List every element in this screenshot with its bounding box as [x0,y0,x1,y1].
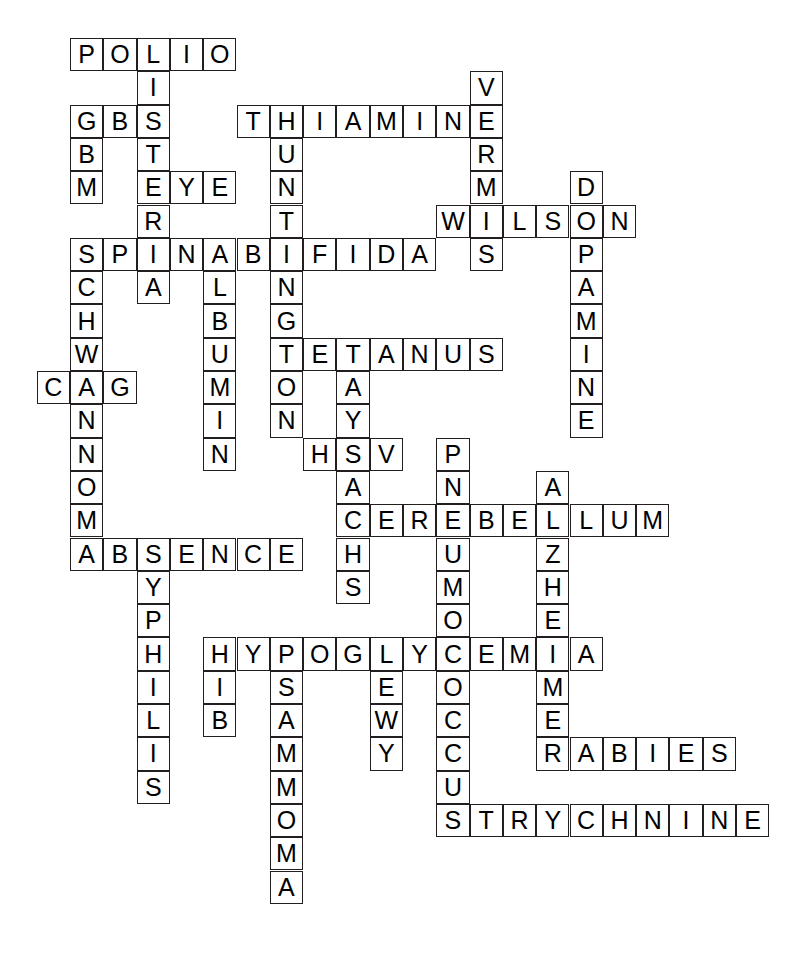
crossword-cell[interactable]: W [436,205,469,238]
crossword-cell[interactable]: I [203,671,236,704]
crossword-cell[interactable]: Y [336,404,369,437]
crossword-cell[interactable]: T [137,138,170,171]
crossword-cell[interactable]: I [137,238,170,271]
crossword-cell[interactable]: B [70,138,103,171]
crossword-cell[interactable]: G [103,371,136,404]
crossword-cell[interactable]: P [70,38,103,71]
crossword-cell[interactable]: E [436,504,469,537]
crossword-cell[interactable]: G [336,637,369,670]
crossword-cell[interactable]: I [170,38,203,71]
crossword-cell[interactable]: T [270,205,303,238]
crossword-cell[interactable]: L [203,271,236,304]
crossword-cell[interactable]: N [403,338,436,371]
crossword-cell[interactable]: I [536,637,569,670]
crossword-cell[interactable]: M [536,671,569,704]
crossword-cell[interactable]: S [536,205,569,238]
crossword-cell[interactable]: I [303,105,336,138]
crossword-cell[interactable]: I [336,238,369,271]
crossword-cell[interactable]: U [436,538,469,571]
crossword-cell[interactable]: O [270,804,303,837]
crossword-cell[interactable]: R [137,205,170,238]
crossword-cell[interactable]: A [70,371,103,404]
crossword-cell[interactable]: E [669,737,702,770]
crossword-cell[interactable]: N [436,471,469,504]
crossword-cell[interactable]: C [436,704,469,737]
crossword-cell[interactable]: O [570,205,603,238]
crossword-cell[interactable]: Y [536,804,569,837]
crossword-cell[interactable]: H [70,304,103,337]
crossword-cell[interactable]: T [237,105,270,138]
crossword-cell[interactable]: G [270,304,303,337]
crossword-cell[interactable]: A [570,737,603,770]
crossword-cell[interactable]: E [570,404,603,437]
crossword-cell[interactable]: N [70,404,103,437]
crossword-cell[interactable]: W [370,704,403,737]
crossword-cell[interactable]: N [270,271,303,304]
crossword-cell[interactable]: C [436,737,469,770]
crossword-cell[interactable]: F [303,238,336,271]
crossword-cell[interactable]: O [203,38,236,71]
crossword-cell[interactable]: P [436,438,469,471]
crossword-cell[interactable]: D [570,171,603,204]
crossword-cell[interactable]: E [536,704,569,737]
crossword-cell[interactable]: N [703,804,736,837]
crossword-cell[interactable]: O [70,471,103,504]
crossword-cell[interactable]: H [203,637,236,670]
crossword-cell[interactable]: A [270,871,303,904]
crossword-cell[interactable]: L [137,38,170,71]
crossword-cell[interactable]: A [570,271,603,304]
crossword-cell[interactable]: S [336,438,369,471]
crossword-cell[interactable]: E [536,604,569,637]
crossword-cell[interactable]: A [70,538,103,571]
crossword-cell[interactable]: B [203,304,236,337]
crossword-cell[interactable]: C [436,637,469,670]
crossword-cell[interactable]: U [603,504,636,537]
crossword-cell[interactable]: N [570,371,603,404]
crossword-cell[interactable]: P [103,238,136,271]
crossword-cell[interactable]: I [669,804,702,837]
crossword-cell[interactable]: N [70,438,103,471]
crossword-cell[interactable]: E [370,671,403,704]
crossword-cell[interactable]: E [470,637,503,670]
crossword-cell[interactable]: I [403,105,436,138]
crossword-cell[interactable]: E [303,338,336,371]
crossword-cell[interactable]: M [270,737,303,770]
crossword-cell[interactable]: H [270,105,303,138]
crossword-cell[interactable]: I [270,238,303,271]
crossword-cell[interactable]: S [137,771,170,804]
crossword-cell[interactable]: M [503,637,536,670]
crossword-cell[interactable]: L [536,504,569,537]
crossword-cell[interactable]: S [137,105,170,138]
crossword-cell[interactable]: O [436,671,469,704]
crossword-cell[interactable]: C [37,371,70,404]
crossword-cell[interactable]: H [336,538,369,571]
crossword-cell[interactable]: I [636,737,669,770]
crossword-cell[interactable]: A [570,637,603,670]
crossword-cell[interactable]: M [203,371,236,404]
crossword-cell[interactable]: M [436,571,469,604]
crossword-cell[interactable]: M [370,105,403,138]
crossword-cell[interactable]: N [636,804,669,837]
crossword-cell[interactable]: N [170,238,203,271]
crossword-cell[interactable]: S [70,238,103,271]
crossword-cell[interactable]: N [270,404,303,437]
crossword-cell[interactable]: N [203,538,236,571]
crossword-cell[interactable]: I [570,338,603,371]
crossword-cell[interactable]: I [203,404,236,437]
crossword-cell[interactable]: Y [170,171,203,204]
crossword-cell[interactable]: N [603,205,636,238]
crossword-cell[interactable]: P [570,238,603,271]
crossword-cell[interactable]: B [103,538,136,571]
crossword-cell[interactable]: O [303,637,336,670]
crossword-cell[interactable]: M [270,771,303,804]
crossword-cell[interactable]: I [470,205,503,238]
crossword-cell[interactable]: C [237,538,270,571]
crossword-cell[interactable]: A [336,471,369,504]
crossword-cell[interactable]: Z [536,538,569,571]
crossword-cell[interactable]: S [470,238,503,271]
crossword-cell[interactable]: U [203,338,236,371]
crossword-cell[interactable]: B [237,238,270,271]
crossword-cell[interactable]: D [370,238,403,271]
crossword-cell[interactable]: R [536,737,569,770]
crossword-cell[interactable]: O [270,371,303,404]
